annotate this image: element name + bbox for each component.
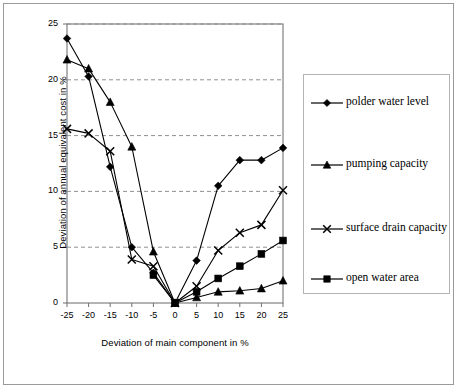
legend-item: surface drain capacity (310, 221, 448, 237)
x-tick-label: 25 (270, 310, 296, 320)
legend-marker-cross (310, 221, 344, 237)
marker-square (215, 275, 222, 282)
legend-label: open water area (344, 271, 419, 284)
legend-item: pumping capacity (310, 157, 448, 173)
marker-square (172, 300, 179, 307)
marker-diamond (323, 99, 330, 106)
marker-square (280, 237, 287, 244)
plot-frame (67, 24, 283, 303)
y-axis-title: Deviation of annual equivalent cost in % (57, 23, 68, 303)
marker-square (324, 276, 330, 282)
y-tick-label: 15 (36, 130, 58, 140)
marker-square (236, 263, 243, 270)
legend-label: surface drain capacity (344, 221, 447, 234)
marker-square (193, 288, 200, 295)
legend-marker-triangle (310, 157, 344, 173)
legend-label: polder water level (344, 95, 429, 108)
legend-marker-square (310, 271, 344, 287)
y-tick-label: 5 (36, 241, 58, 251)
legend-item: open water area (310, 271, 448, 287)
marker-square (258, 250, 265, 257)
chart-legend: polder water levelpumping capacitysurfac… (303, 74, 450, 294)
y-tick-label: 20 (36, 74, 58, 84)
chart-figure: Deviation of main component in % Deviati… (0, 0, 458, 389)
x-axis-title: Deviation of main component in % (67, 337, 283, 348)
y-tick-label: 25 (36, 18, 58, 28)
legend-marker-diamond (310, 95, 344, 111)
marker-square (150, 272, 157, 279)
y-tick-label: 0 (36, 297, 58, 307)
legend-label: pumping capacity (344, 157, 428, 170)
y-tick-label: 10 (36, 185, 58, 195)
legend-item: polder water level (310, 95, 448, 111)
